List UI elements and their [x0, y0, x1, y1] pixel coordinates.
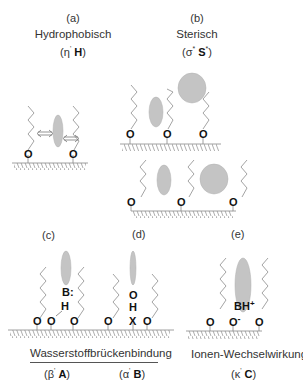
solute-molecule-small	[149, 97, 163, 127]
silanol-hydrogen: H	[61, 300, 69, 312]
surface-oxygen: O	[255, 316, 264, 328]
panel-d-diagram: O X O O H	[104, 251, 158, 330]
solute-molecule	[130, 251, 136, 285]
surface-oxygen: O	[33, 315, 42, 327]
solute-molecule	[53, 115, 63, 147]
surface-oxygen: O	[69, 148, 78, 160]
diagram-canvas: O O O O O O O O	[0, 0, 303, 386]
surface-oxygen: O	[127, 196, 136, 208]
surface-oxygen: O	[163, 128, 172, 140]
alkyl-chain	[140, 160, 146, 197]
silanolate-anion: O-	[229, 314, 241, 328]
surface-oxygen: O	[47, 315, 56, 327]
solute-molecule-small	[157, 165, 171, 195]
surface-oxygen: O	[70, 315, 79, 327]
surface-hatch	[133, 211, 233, 218]
surface-hatch	[122, 144, 219, 151]
hydroxyl-oxygen: O	[129, 289, 138, 301]
alkyl-chain	[113, 274, 119, 318]
protonated-base: BH+	[234, 299, 255, 312]
hydroxyl-hydrogen: H	[129, 301, 137, 313]
alkyl-chain	[40, 267, 46, 318]
base-lone-pair: B:	[62, 286, 74, 298]
solute-molecule-bulky	[200, 164, 228, 194]
surface-hatch	[14, 163, 86, 170]
panel-b-diagram-bottom: O O O	[127, 160, 247, 218]
surface-oxygen: O	[24, 148, 33, 160]
alkyl-chain	[241, 160, 247, 197]
surface-oxygen: O	[206, 316, 215, 328]
surface-oxygen: O	[143, 315, 152, 327]
alkyl-chain	[262, 258, 268, 309]
alkyl-chain	[131, 85, 137, 129]
alkyl-chain	[203, 92, 209, 129]
surface-oxygen: O	[126, 128, 135, 140]
surface-hatch	[10, 330, 170, 338]
surface-oxygen: O	[104, 315, 113, 327]
alkyl-chain	[73, 106, 79, 150]
alkyl-chain	[152, 274, 158, 318]
acceptor-atom: X	[129, 315, 137, 327]
solute-molecule-bulky	[178, 73, 206, 103]
surface-hatch	[188, 331, 260, 339]
panel-a-diagram: O O	[12, 106, 88, 170]
solute-molecule	[61, 251, 71, 285]
panel-b-diagram-top: O O O	[120, 73, 221, 151]
surface-oxygen: O	[199, 128, 208, 140]
surface-oxygen: O	[229, 196, 238, 208]
surface-oxygen: O	[177, 196, 186, 208]
alkyl-chain	[220, 258, 226, 309]
alkyl-chain	[28, 106, 34, 150]
alkyl-chain	[188, 160, 194, 197]
alkyl-chain	[78, 267, 84, 318]
alkyl-chain	[167, 89, 173, 129]
panel-e-diagram: O O- O BH+	[186, 258, 268, 339]
